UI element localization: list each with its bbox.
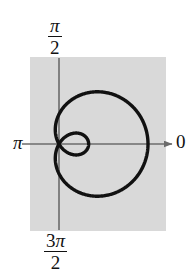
fraction-numerator: 3π (44, 231, 67, 252)
axis-label-pi: π (13, 133, 23, 152)
fraction-pi-over-two: π 2 (48, 16, 62, 57)
fraction-denominator: 2 (44, 252, 67, 269)
fraction-denominator: 2 (48, 37, 62, 57)
fraction-three-pi-over-two: 3π 2 (44, 231, 67, 269)
axis-label-three-pi-over-two: 3π 2 (44, 231, 67, 269)
axis-label-pi-over-two: π 2 (48, 16, 62, 57)
fraction-numerator: π (48, 16, 62, 37)
numerator-symbol: π (56, 230, 66, 251)
numerator-coefficient: 3 (46, 230, 56, 251)
polar-plot-figure (0, 0, 194, 269)
axis-label-zero: 0 (176, 132, 186, 151)
